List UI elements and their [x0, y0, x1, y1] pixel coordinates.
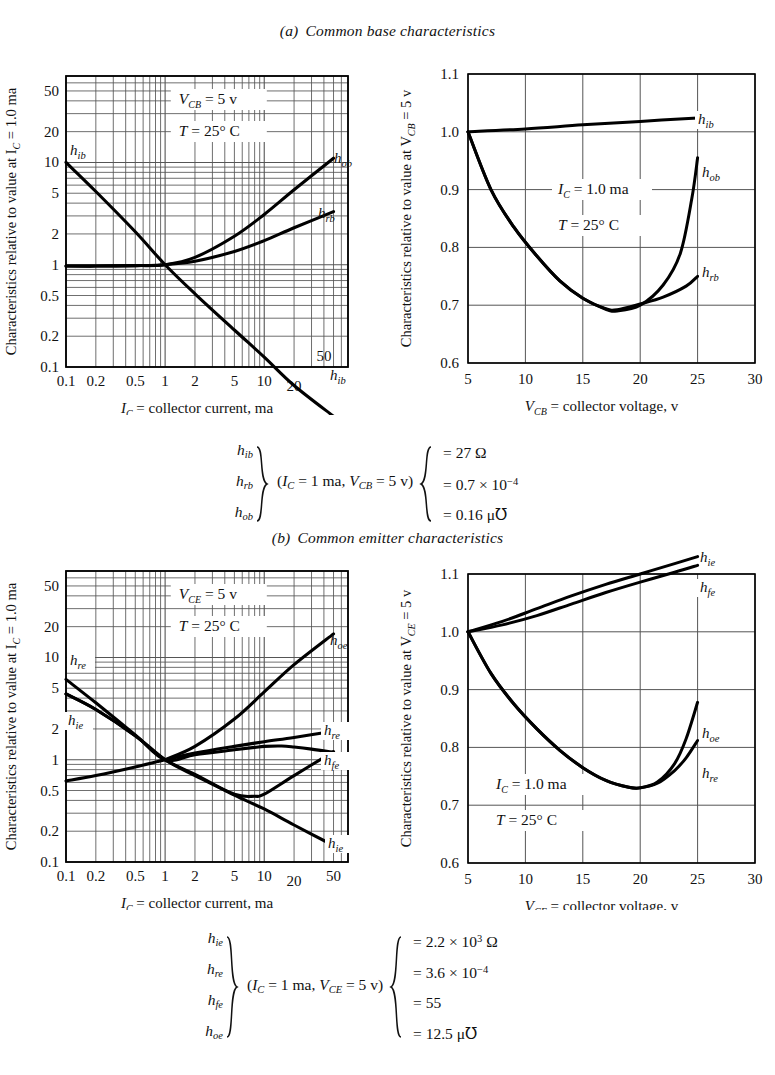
x-tick: 5: [231, 868, 239, 884]
x-tick: 30: [748, 871, 763, 887]
panel-b-title: (b)Common emitter characteristics: [0, 529, 775, 547]
x-tick: 10: [518, 871, 533, 887]
curve-h_ie: [66, 731, 334, 781]
legend-param: hrb: [205, 468, 255, 499]
chart-b-left: 0.10.20.51251020500.10.20.5125102050VCE …: [0, 550, 380, 910]
panel-a-title-text: Common base characteristics: [306, 22, 496, 39]
left-brace: [225, 925, 241, 1049]
annotations: IC = 1.0 maT = 25° C: [490, 774, 590, 831]
x-tick: 0.5: [126, 373, 145, 389]
curve-h_re: [66, 679, 334, 760]
legend-param: hob: [205, 499, 255, 530]
y-tick: 50: [44, 578, 59, 594]
legend-b: hie(IC = 1 ma, VCE = 5 v)= 2.2 × 103 Ωhr…: [175, 925, 645, 1055]
curve-label-h_oe: hoe: [330, 632, 348, 651]
x-tick: 20: [633, 371, 648, 387]
curve-label-h_ie: hie: [700, 550, 715, 568]
b-right-host-svg: 510152025300.60.70.80.91.01.1IC = 1.0 ma…: [395, 550, 775, 910]
x-tick: 10: [518, 371, 533, 387]
y-tick-labels: 0.60.70.80.91.01.1: [440, 566, 459, 871]
x-tick: 5: [464, 371, 472, 387]
x-axis-label: IC = collector current, ma: [120, 400, 273, 415]
x-tick: 0.2: [86, 373, 105, 389]
legend-row: hib(IC = 1 ma, VCB = 5 v)= 27 Ω: [205, 437, 518, 468]
right-brace: [419, 437, 435, 530]
x-tick: 20: [633, 871, 648, 887]
y-tick: 50: [44, 83, 59, 99]
legend-param: hib: [205, 437, 255, 468]
x-tick: 30: [748, 371, 763, 387]
y-tick: 1.0: [440, 124, 459, 140]
annotation: T = 25° C: [558, 216, 619, 233]
legend-value: = 0.16 μ℧: [435, 499, 518, 530]
y-tick: 0.8: [440, 739, 459, 755]
legend-value: = 27 Ω: [435, 437, 518, 468]
y-tick: 0.2: [40, 823, 59, 839]
x-tick-labels: 0.10.20.5125102050: [57, 348, 332, 394]
panel-b-label: (b): [272, 529, 291, 546]
legend-param: hie: [175, 925, 225, 956]
legend-param: hfe: [175, 987, 225, 1018]
x-tick: 25: [690, 871, 705, 887]
y-tick: 0.9: [440, 182, 459, 198]
y-tick-labels: 0.10.20.5125102050: [40, 83, 59, 375]
legend-value: = 0.7 × 10−4: [435, 468, 518, 499]
curve-label-h_rb: hrb: [318, 205, 335, 224]
x-tick: 2: [191, 373, 199, 389]
annotations: VCB = 5 vT = 25° C: [171, 89, 267, 142]
a-left-host-svg: 0.10.20.51251020500.10.20.5125102050VCB …: [0, 55, 380, 415]
curve-labels: hibhobhrb: [695, 111, 729, 283]
y-axis-label: Characteristics relative to value at VCB…: [398, 89, 417, 347]
y-tick: 1.1: [440, 66, 459, 82]
annotations: IC = 1.0 maT = 25° C: [552, 179, 652, 236]
curves: [66, 634, 334, 846]
y-tick: 0.7: [440, 297, 459, 313]
legend-param: hoe: [175, 1018, 225, 1049]
curve-label-h_ob: hob: [334, 150, 352, 169]
x-tick: 0.1: [57, 868, 76, 884]
curve-labels: hrehiehoehrehfehie: [65, 632, 353, 854]
x-tick: 10: [257, 373, 272, 389]
x-tick: 2: [191, 868, 199, 884]
x-tick: 0.2: [86, 868, 105, 884]
chart-b-right: 510152025300.60.70.80.91.01.1IC = 1.0 ma…: [395, 550, 775, 910]
x-tick: 5: [231, 373, 239, 389]
x-tick: 0.1: [57, 373, 76, 389]
svg-text:Characteristics relative to va: Characteristics relative to value at VCE…: [398, 589, 417, 847]
x-tick: 20: [287, 873, 302, 889]
x-tick: 15: [575, 871, 590, 887]
y-tick: 0.5: [40, 783, 59, 799]
panel-a-label: (a): [280, 22, 299, 39]
y-axis-label: Characteristics relative to value at IC …: [3, 87, 22, 355]
y-tick: 2: [52, 721, 60, 737]
panel-a-title: (a)Common base characteristics: [0, 22, 775, 40]
x-tick: 1: [161, 373, 169, 389]
x-axis-label: VCB = collector voltage, v: [525, 398, 679, 415]
y-tick: 10: [44, 154, 59, 170]
y-tick: 2: [52, 226, 60, 242]
y-tick: 0.7: [440, 797, 459, 813]
x-tick: 5: [464, 871, 472, 887]
legend-value: = 3.6 × 10−4: [405, 956, 498, 987]
y-tick: 0.1: [40, 854, 59, 870]
x-tick: 10: [257, 868, 272, 884]
y-tick: 0.9: [440, 682, 459, 698]
x-tick: 50: [326, 868, 341, 884]
chart-a-left: 0.10.20.51251020500.10.20.5125102050VCB …: [0, 55, 380, 415]
b-left-host-svg: 0.10.20.51251020500.10.20.5125102050VCE …: [0, 550, 380, 910]
y-tick-labels: 0.60.70.80.91.01.1: [440, 66, 459, 371]
legend-a: hib(IC = 1 ma, VCB = 5 v)= 27 Ωhrb= 0.7 …: [205, 437, 635, 527]
x-tick-labels: 51015202530: [464, 871, 762, 887]
y-tick: 1: [52, 752, 60, 768]
right-brace: [389, 925, 405, 1049]
x-axis-label: VCE = collector voltage, v: [525, 898, 679, 910]
y-tick: 20: [44, 124, 59, 140]
x-tick: 50: [316, 348, 331, 364]
curve-h_rb: [66, 212, 334, 266]
legend-value: = 2.2 × 103 Ω: [405, 925, 498, 956]
y-tick: 0.5: [40, 288, 59, 304]
x-tick-labels: 51015202530: [464, 371, 762, 387]
legend-value: = 55: [405, 987, 498, 1018]
panel-b-title-text: Common emitter characteristics: [297, 529, 503, 546]
y-tick: 0.6: [440, 355, 459, 371]
